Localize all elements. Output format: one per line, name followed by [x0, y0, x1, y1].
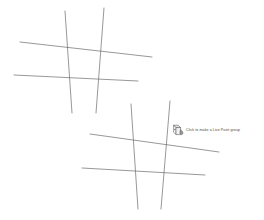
stroke-vertical-left[interactable] — [65, 11, 72, 113]
stroke-horizontal-upper[interactable] — [20, 42, 152, 57]
artwork-layer — [0, 0, 264, 220]
live-paint-bucket-cursor-icon — [173, 124, 184, 136]
upper-left-line-group[interactable] — [14, 8, 152, 113]
live-paint-tooltip-label: Click to make a Live Paint group — [186, 129, 240, 133]
stroke-horizontal-lower[interactable] — [14, 75, 138, 81]
stroke-horizontal-lower[interactable] — [82, 168, 205, 175]
stroke-horizontal-upper[interactable] — [90, 134, 219, 152]
lower-right-line-group[interactable] — [82, 101, 219, 209]
illustrator-canvas[interactable]: Click to make a Live Paint group — [0, 0, 264, 220]
live-paint-tooltip[interactable]: Click to make a Live Paint group — [173, 124, 240, 136]
stroke-vertical-left[interactable] — [131, 104, 138, 209]
stroke-vertical-right[interactable] — [96, 8, 104, 113]
stroke-vertical-right[interactable] — [161, 101, 170, 209]
